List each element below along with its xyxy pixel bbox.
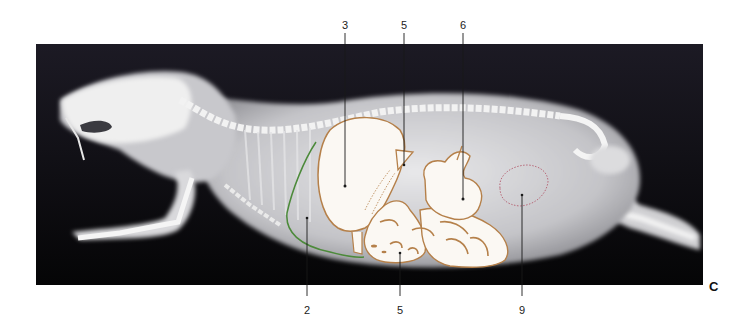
panel-letter: C — [709, 279, 718, 294]
label-9: 9 — [519, 304, 525, 316]
label-2: 2 — [304, 304, 310, 316]
label-6: 6 — [460, 19, 466, 31]
label-3-stomach: 3 — [342, 19, 348, 31]
radiograph-svg — [0, 0, 755, 334]
label-5-top: 5 — [401, 19, 407, 31]
radiograph-figure: 3 5 6 2 5 9 C — [0, 0, 755, 334]
label-5-bottom: 5 — [397, 304, 403, 316]
